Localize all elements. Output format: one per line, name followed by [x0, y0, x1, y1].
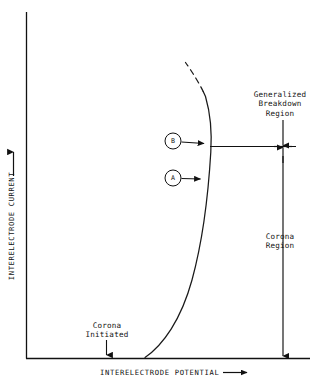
- y-axis-label: INTERELECTRODE CURRENT: [8, 146, 17, 306]
- marker-a-label: A: [164, 174, 182, 182]
- marker-b-leader-arrow: [182, 142, 205, 144]
- corona-breakdown-figure: Generalized Breakdown Region Corona Regi…: [0, 0, 325, 384]
- corona-initiated-label: Corona Initiated: [69, 321, 145, 340]
- figure-canvas: [0, 0, 325, 384]
- x-axis-label: INTERELECTRODE POTENTIAL: [100, 369, 219, 378]
- generalized-breakdown-region-label: Generalized Breakdown Region: [243, 90, 317, 118]
- corona-region-label: Corona Region: [243, 232, 317, 251]
- characteristic-curve-dashed: [186, 63, 204, 92]
- marker-a-leader-arrow: [182, 179, 201, 180]
- marker-b-label: B: [164, 137, 182, 145]
- y-axis-label-wrapper: INTERELECTRODE CURRENT: [8, 146, 24, 306]
- characteristic-curve-solid: [145, 92, 211, 358]
